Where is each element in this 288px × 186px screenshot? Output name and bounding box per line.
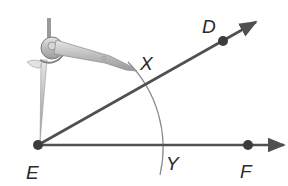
diagram-svg: E D F X Y [0,0,288,186]
label-F: F [240,161,253,182]
construction-arc [128,62,163,175]
point-D [218,36,228,46]
label-Y: Y [166,153,180,174]
point-F [243,140,253,150]
label-E: E [26,162,39,183]
label-D: D [202,16,216,37]
geometry-diagram: E D F X Y [0,0,288,186]
label-X: X [139,53,154,74]
point-E [33,140,43,150]
compass-icon [27,18,137,142]
